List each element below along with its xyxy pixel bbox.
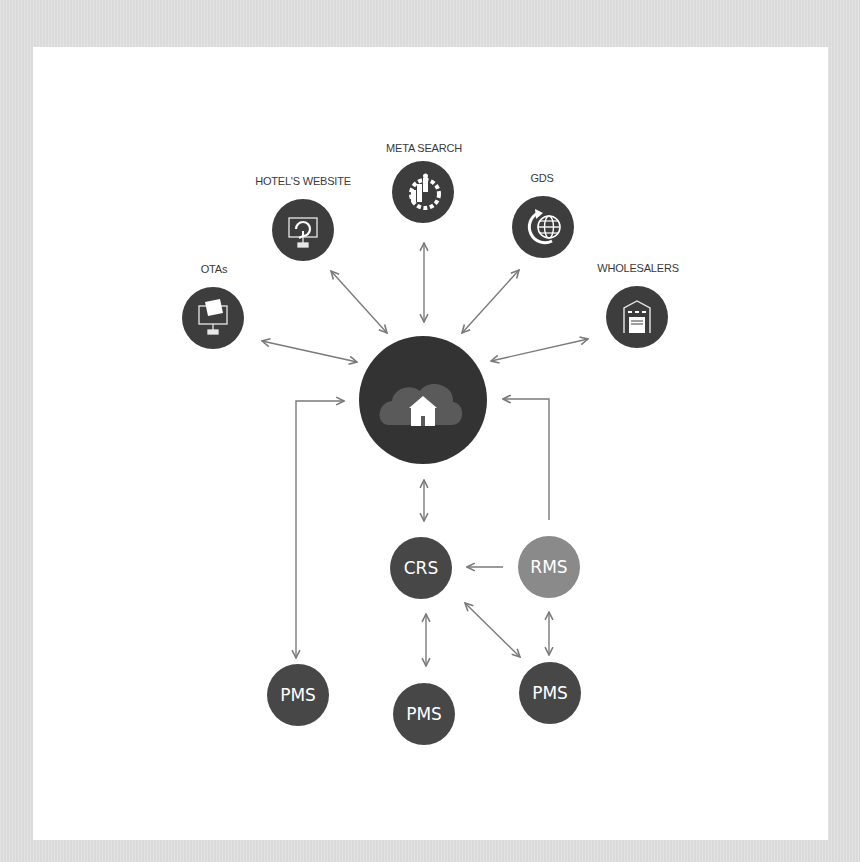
connector-otas-hub bbox=[262, 341, 357, 362]
diagram-canvas: OTAs HOTEL'S WEBSITE META SEARCH bbox=[0, 0, 860, 862]
connector-rms-hub bbox=[503, 399, 549, 520]
connector-wholesalers-hub bbox=[491, 339, 588, 361]
pms-right-label: PMS bbox=[532, 683, 568, 703]
system-rms[interactable]: RMS bbox=[518, 536, 580, 598]
hotels-website-circle bbox=[272, 199, 334, 261]
system-crs[interactable]: CRS bbox=[390, 537, 452, 599]
system-pms-left[interactable]: PMS bbox=[267, 664, 329, 726]
connector-crs-pms-right bbox=[465, 603, 520, 657]
system-pms-middle[interactable]: PMS bbox=[393, 683, 455, 745]
gds-label: GDS bbox=[530, 172, 553, 184]
hub-node[interactable] bbox=[359, 336, 487, 464]
meta-search-label: META SEARCH bbox=[386, 142, 462, 154]
system-pms-right[interactable]: PMS bbox=[519, 662, 581, 724]
connector-website-hub bbox=[331, 271, 387, 333]
hotels-website-label: HOTEL'S WEBSITE bbox=[255, 175, 351, 187]
connector-gds-hub bbox=[462, 270, 519, 333]
otas-label: OTAs bbox=[201, 263, 228, 275]
pms-left-label: PMS bbox=[280, 685, 316, 705]
wholesalers-label: WHOLESALERS bbox=[597, 262, 679, 274]
channel-meta-search[interactable]: META SEARCH bbox=[386, 142, 462, 223]
connector-pms-left-hub bbox=[296, 401, 344, 658]
crs-label: CRS bbox=[404, 558, 438, 578]
otas-circle bbox=[182, 287, 244, 349]
rms-label: RMS bbox=[530, 557, 567, 577]
channel-otas[interactable]: OTAs bbox=[182, 263, 244, 349]
channel-wholesalers[interactable]: WHOLESALERS bbox=[597, 262, 679, 348]
pms-middle-label: PMS bbox=[406, 704, 442, 724]
channel-gds[interactable]: GDS bbox=[512, 172, 574, 258]
channel-hotels-website[interactable]: HOTEL'S WEBSITE bbox=[255, 175, 351, 261]
